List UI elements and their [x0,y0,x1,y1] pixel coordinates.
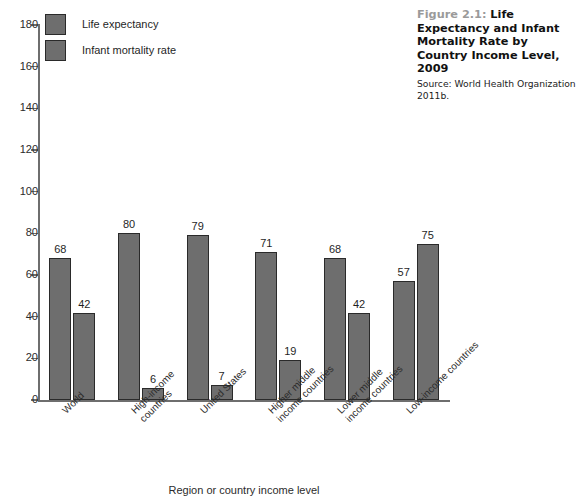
figure-number: Figure 2.1: [417,8,486,21]
legend-label: Infant mortality rate [82,44,176,56]
y-axis-tick-label: 20 [12,351,38,363]
legend-swatch-icon [45,14,66,35]
bar [73,313,95,401]
x-axis-line [38,400,450,402]
y-axis-tick-label: 140 [12,101,38,113]
figure-caption: Figure 2.1: Life Expectancy and Infant M… [417,8,579,101]
y-axis-tick-label: 100 [12,185,38,197]
bar-value-label: 71 [247,237,285,249]
legend-label: Life expectancy [82,18,158,30]
x-axis-category-label: Low-income countries [404,339,481,416]
y-axis-line [38,24,40,401]
bar-value-label: 42 [340,298,378,310]
y-axis-tick-label: 80 [12,226,38,238]
y-axis-tick-label: 40 [12,310,38,322]
figure-title: Figure 2.1: Life Expectancy and Infant M… [417,8,579,76]
bar [255,252,277,400]
y-axis-tick-label: 160 [12,60,38,72]
bar-value-label: 42 [65,298,103,310]
bar [49,258,71,400]
legend-item-infant-mortality-rate: Infant mortality rate [45,37,176,63]
bar-value-label: 75 [409,229,447,241]
chart-legend: Life expectancy Infant mortality rate [45,11,176,63]
bar-value-label: 68 [316,243,354,255]
y-axis-tick-label: 0 [12,393,38,405]
bar [393,281,415,400]
y-axis-tick-label: 60 [12,268,38,280]
bar-value-label: 19 [271,345,309,357]
figure-source: Source: World Health Organization 2011b. [417,78,579,101]
legend-swatch-icon [45,40,66,61]
bar-value-label: 79 [179,220,217,232]
x-axis-title: Region or country income level [38,484,450,496]
legend-item-life-expectancy: Life expectancy [45,11,176,37]
y-axis-tick-label: 180 [12,18,38,30]
bar-value-label: 80 [110,218,148,230]
bar-value-label: 68 [41,243,79,255]
y-axis-tick-label: 120 [12,143,38,155]
